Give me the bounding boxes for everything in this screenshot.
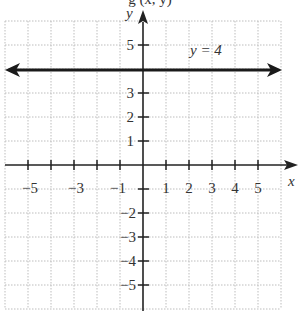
y-axis: 5 3 2 1 −2 −3 −4 −5 y: [120, 5, 149, 311]
y-tick-label: 3: [127, 85, 135, 101]
x-tick-label: 3: [208, 180, 216, 196]
y-tick-label: 1: [127, 133, 135, 149]
y-tick-label: −3: [120, 229, 136, 245]
line-label-text: y = 4: [188, 42, 222, 58]
x-tick-label: 2: [185, 180, 193, 196]
x-tick-label: −3: [68, 180, 84, 196]
y-axis-arrow-icon: [138, 10, 148, 24]
x-tick-label: 1: [162, 180, 170, 196]
y-tick-label: −5: [120, 277, 136, 293]
x-tick-label: −1: [110, 180, 126, 196]
y-tick-label: 2: [127, 109, 135, 125]
y-tick-label: 5: [127, 37, 135, 53]
header-fragment: g (x, y): [128, 0, 172, 8]
x-axis: −5 −3 −1 1 2 3 4 5 x: [5, 160, 298, 196]
x-tick-label: 4: [231, 180, 239, 196]
line-label: y = 4: [188, 42, 222, 58]
y-tick-label: −4: [120, 253, 136, 269]
x-tick-label: 5: [254, 180, 262, 196]
coordinate-plane: g (x, y): [0, 0, 299, 311]
y-tick-label: −2: [120, 205, 136, 221]
x-axis-label: x: [287, 173, 295, 189]
y-axis-label: y: [124, 5, 133, 21]
x-tick-label: −5: [22, 180, 38, 196]
